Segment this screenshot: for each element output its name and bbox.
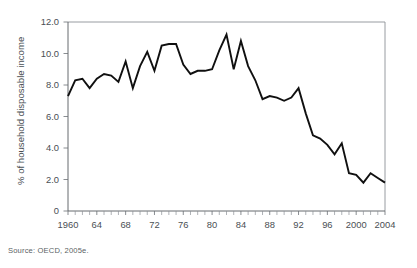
x-tick-label: 2000 [346, 219, 367, 230]
x-tick-label: 72 [149, 219, 159, 230]
plot-frame [68, 22, 385, 211]
data-series-line [68, 35, 385, 183]
y-tick-label: 2.0 [46, 174, 59, 185]
y-axis-ticks [64, 22, 69, 211]
y-tick-label: 8.0 [46, 79, 59, 90]
y-axis-title-group: % of household disposable income [15, 37, 26, 185]
x-tick-label: 68 [120, 219, 130, 230]
x-axis-minor-ticks [68, 211, 385, 215]
saving-rate-line-chart: 12.0 10.0 8.0 6.0 4.0 2.0 0 196064687276… [0, 0, 417, 240]
x-tick-label: 84 [236, 219, 246, 230]
x-tick-label: 1960 [58, 219, 79, 230]
y-tick-label: 6.0 [46, 111, 59, 122]
y-tick-label: 10.0 [41, 48, 59, 59]
y-tick-label: 12.0 [41, 16, 59, 27]
y-axis-tick-labels: 12.0 10.0 8.0 6.0 4.0 2.0 0 [41, 16, 59, 216]
x-tick-label: 80 [207, 219, 217, 230]
x-tick-label: 88 [265, 219, 275, 230]
x-tick-label: 2004 [375, 219, 396, 230]
y-axis-title: % of household disposable income [15, 37, 26, 185]
x-tick-label: 92 [293, 219, 303, 230]
chart-figure: 12.0 10.0 8.0 6.0 4.0 2.0 0 196064687276… [0, 0, 417, 268]
x-tick-label: 76 [178, 219, 188, 230]
y-tick-label: 0 [54, 205, 59, 216]
y-tick-label: 4.0 [46, 142, 59, 153]
x-tick-label: 96 [322, 219, 332, 230]
x-axis-tick-labels: 196064687276808488929620002004 [58, 219, 396, 230]
x-tick-label: 64 [92, 219, 102, 230]
source-note: Source: OECD, 2005e. [8, 246, 89, 255]
